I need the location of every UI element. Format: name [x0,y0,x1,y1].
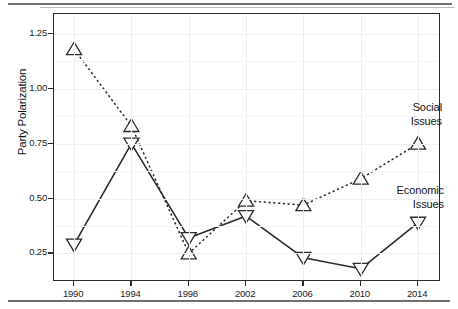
annotation-economic-line2: Issues [397,197,445,211]
gridline-vertical [189,14,190,280]
gridline-vertical [131,14,132,280]
x-tick-label: 2002 [235,288,255,299]
x-tick-label: 1994 [120,288,140,299]
annotation-social-line1: Social [411,100,442,114]
annotation-social-line2: Issues [411,114,442,128]
gridline-horizontal-minor [54,61,439,62]
chart-figure: Party Polarization 0.250.500.751.001.25 … [0,0,458,309]
x-tick-label: 1990 [63,288,83,299]
annotation-economic-issues: Economic Issues [397,183,445,211]
annotation-social-issues: Social Issues [411,100,442,128]
gridline-vertical [361,14,362,280]
x-tick-label: 2010 [350,288,370,299]
gridline-vertical [74,14,75,280]
series-layer [54,14,441,282]
x-tick-label: 2014 [407,288,427,299]
gridline-vertical [418,14,419,280]
x-tick-label: 2006 [292,288,312,299]
y-axis-label: Party Polarization [16,12,28,212]
gridline-horizontal-minor [54,116,439,117]
gridline-vertical [303,14,304,280]
x-tick-label: 1998 [178,288,198,299]
gridline-vertical [246,14,247,280]
gridline-horizontal-minor [54,226,439,227]
y-tick-label: 1.25 [16,27,47,38]
plot-area [53,13,440,281]
y-tick-label: 0.75 [16,137,47,148]
gridline-horizontal-minor [54,171,439,172]
y-tick-label: 0.25 [16,246,47,257]
y-tick-label: 0.50 [16,192,47,203]
annotation-economic-line1: Economic [397,183,445,197]
y-tick-label: 1.00 [16,82,47,93]
